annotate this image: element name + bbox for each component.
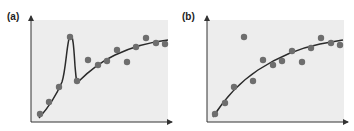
data-point [270, 62, 276, 68]
data-point [337, 42, 343, 48]
data-point [289, 48, 295, 54]
data-point [114, 47, 120, 53]
data-point [250, 78, 256, 84]
panel-a [31, 16, 172, 122]
data-point [95, 62, 101, 68]
panel-b [207, 16, 348, 122]
data-point [308, 45, 314, 51]
data-point [241, 34, 247, 40]
data-point [162, 41, 168, 47]
data-point [74, 78, 80, 84]
data-point [85, 57, 91, 63]
data-point [133, 44, 139, 50]
data-point [260, 57, 266, 63]
data-point [56, 84, 62, 90]
data-point [222, 100, 228, 106]
data-point [328, 40, 334, 46]
data-point [212, 111, 218, 117]
data-point [231, 84, 237, 90]
data-point [279, 58, 285, 64]
data-point [299, 59, 305, 65]
data-point [124, 59, 130, 65]
data-point [37, 111, 43, 117]
data-point [67, 34, 73, 40]
data-point [104, 58, 110, 64]
data-point [143, 35, 149, 41]
data-point [46, 99, 52, 105]
data-point [318, 35, 324, 41]
charts-canvas [0, 0, 354, 131]
data-point [153, 40, 159, 46]
plot-area-b [207, 20, 344, 122]
